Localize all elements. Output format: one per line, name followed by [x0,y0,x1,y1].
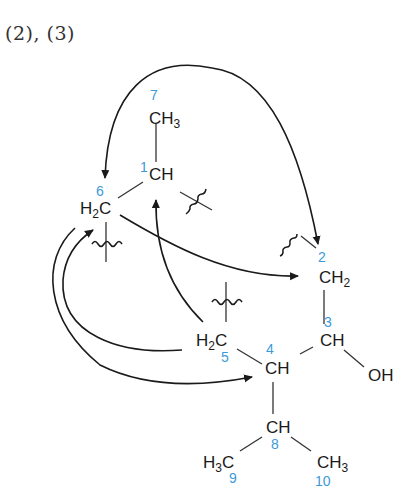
locant-10: 10 [315,473,331,489]
atom-c3: CH [320,331,345,350]
bond-c1-c6 [118,182,143,198]
bond-c8-c10 [291,437,311,451]
arrow-c6-to-c2 [120,215,298,276]
atom-c7: CH3 [149,109,181,131]
locant-4: 4 [266,341,274,357]
bond-c3-c4 [300,347,313,354]
locant-2: 2 [318,249,326,265]
locant-8: 8 [271,436,279,452]
bond-c5-c4 [237,349,262,364]
atom-c10: CH3 [317,453,349,475]
cleavage-c2-icon [280,234,297,256]
atom-c4: CH [265,359,290,378]
atom-c1: CH [149,165,174,184]
reaction-diagram: 7 CH3 1 CH 6 H2C 2 CH2 3 CH OH H2C 5 4 C… [0,0,420,503]
bond-c8-c9 [240,437,262,451]
atom-c8: CH [266,418,291,437]
arrow-top-to-c2 [212,68,318,244]
locant-1: 1 [140,159,148,175]
cleavage-c5-icon [212,300,242,305]
atom-c2: CH2 [319,268,351,290]
cleavage-c6-icon [92,242,122,247]
atom-oh: OH [368,366,394,385]
locant-3: 3 [324,314,332,330]
locant-5: 5 [221,349,229,365]
locant-9: 9 [229,470,237,486]
atom-c6: H2C [80,199,111,221]
locant-7: 7 [150,87,158,103]
bond-c3-oh [344,350,364,367]
arrow-c5-to-c1 [156,200,203,322]
arrow-c5-to-c6 [63,230,182,351]
locant-6: 6 [96,183,104,199]
bond-c1-c2 [180,192,212,210]
bond-c2-up [301,236,316,248]
